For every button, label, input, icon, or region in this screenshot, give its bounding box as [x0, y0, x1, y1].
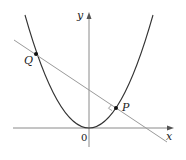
y-axis-arrow-icon [87, 12, 92, 19]
label-y-axis: y [76, 9, 84, 22]
right-angle-marker [109, 105, 113, 111]
point-P [114, 106, 118, 110]
label-origin: 0 [81, 132, 87, 143]
diagram-canvas: Q P y x 0 [0, 0, 186, 160]
point-Q [34, 52, 38, 56]
y-axis [87, 12, 92, 147]
label-Q: Q [24, 54, 33, 67]
label-P: P [121, 101, 130, 114]
label-x-axis: x [166, 130, 173, 143]
